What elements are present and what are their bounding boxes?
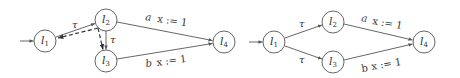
edge-label-action-a: a	[361, 12, 369, 24]
edge-label-tau: τ	[299, 54, 305, 65]
edge-label-action-a: a	[145, 11, 152, 23]
edge-label-update: x := 1	[370, 56, 402, 72]
edge-l3-l4	[344, 44, 413, 60]
automata-diagrams: τ τ a x := 1 b x := 1 l1 l2 l3 l4	[0, 0, 460, 78]
node-l3: l3	[322, 51, 344, 73]
node-l1: l1	[263, 31, 285, 53]
node-l4: l4	[213, 31, 235, 53]
node-l1: l1	[34, 30, 56, 52]
edge-label-action-b: b	[145, 57, 153, 69]
edge-label-update: x := 1	[372, 15, 404, 31]
edge-label-update: x := 1	[157, 13, 188, 28]
right-automaton: τ τ a x := 1 b x := 1 l1 l2 l3 l4	[249, 11, 435, 74]
dashed-edge-l2-l3	[98, 28, 103, 50]
edge-label-action-b: b	[360, 62, 368, 74]
node-l2: l2	[322, 11, 344, 33]
left-automaton: τ τ a x := 1 b x := 1 l1 l2 l3 l4	[20, 9, 235, 72]
node-l2: l2	[95, 9, 117, 31]
edge-label-tau: τ	[72, 19, 78, 30]
edge-label-tau: τ	[110, 34, 116, 45]
node-l4: l4	[413, 31, 435, 53]
node-l3: l3	[95, 50, 117, 72]
edge-label-update: x := 1	[156, 53, 187, 68]
edge-label-tau: τ	[299, 18, 305, 29]
